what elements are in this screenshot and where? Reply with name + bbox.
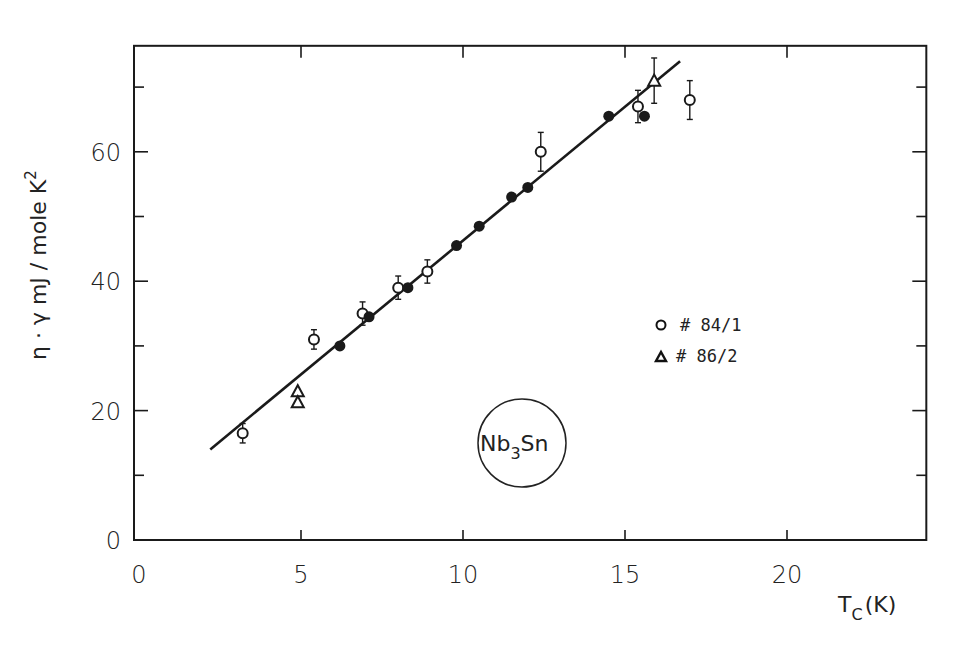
open-circle-marker (422, 266, 432, 276)
filled-circle-marker (451, 240, 462, 251)
filled-circle-marker (639, 111, 650, 122)
x-tick-label: 20 (772, 561, 803, 589)
filled-circle-marker (603, 111, 614, 122)
legend-triangle-icon (656, 352, 666, 361)
open-circle-marker (536, 147, 546, 157)
open-circle-marker (633, 102, 643, 112)
axis-ticks (134, 46, 926, 540)
y-tick-label: 40 (90, 268, 121, 296)
filled-circle-marker (364, 311, 375, 322)
open-circle-marker (309, 334, 319, 344)
legend-label-86-2: # 86/2 (676, 346, 737, 366)
open-circle-marker (685, 95, 695, 105)
x-tick-label: 10 (448, 561, 479, 589)
plot-frame (134, 46, 926, 540)
legend-open-circle-icon (657, 321, 666, 330)
open-circle-marker (238, 428, 248, 438)
filled-circle-marker (402, 282, 413, 293)
filled-circle-marker (522, 182, 533, 193)
material-label: Nb3Sn (480, 431, 549, 463)
y-tick-label: 20 (90, 398, 121, 426)
legend: # 84/1 # 86/2 (656, 315, 741, 366)
y-tick-label: 60 (90, 139, 121, 167)
open-circle-marker (393, 283, 403, 293)
filled-circle-marker (334, 340, 345, 351)
x-axis-title: TC(K) (837, 592, 896, 624)
plot-border (134, 46, 926, 540)
data-points (238, 58, 695, 443)
triangle-marker (292, 396, 304, 407)
material-annotation: Nb3Sn (478, 399, 566, 487)
filled-circle-marker (506, 192, 517, 203)
x-tick-label: 15 (610, 561, 641, 589)
chart: 051015200204060 η · γ mJ / mole K2 TC(K)… (0, 0, 958, 658)
y-axis-title: η · γ mJ / mole K2 (22, 170, 51, 360)
x-tick-label: 5 (293, 561, 308, 589)
legend-label-84-1: # 84/1 (680, 315, 741, 335)
y-tick-label: 0 (106, 527, 121, 555)
x-tick-label: 0 (131, 561, 146, 589)
filled-circle-marker (474, 221, 485, 232)
